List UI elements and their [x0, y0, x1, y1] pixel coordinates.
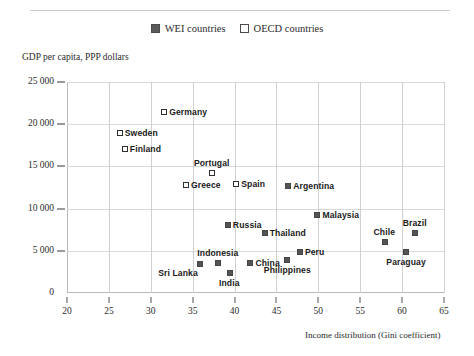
- data-point[interactable]: [262, 230, 268, 236]
- data-point-label: Brazil: [403, 218, 427, 228]
- data-point-label: Greece: [191, 180, 221, 190]
- data-point-label: Portugal: [194, 158, 230, 168]
- data-point-label: Sweden: [125, 128, 158, 138]
- x-tick-mark: [275, 297, 277, 303]
- data-point[interactable]: [215, 260, 221, 266]
- y-tick-mark: [57, 208, 65, 210]
- data-point[interactable]: [227, 270, 233, 276]
- data-point-label: Chile: [374, 227, 396, 237]
- legend-item-oecd: OECD countries: [240, 23, 324, 34]
- data-point[interactable]: [412, 230, 418, 236]
- x-tick-label: 60: [390, 306, 414, 316]
- data-point[interactable]: [314, 212, 320, 218]
- y-axis-title: GDP per capita, PPP dollars: [22, 52, 129, 62]
- y-tick-label: 0: [49, 287, 54, 297]
- y-tick-mark: [57, 81, 65, 83]
- x-tick-mark: [317, 297, 319, 303]
- data-point-label: Indonesia: [197, 248, 238, 258]
- chart-figure: WEI countries OECD countries GDP per cap…: [0, 0, 474, 356]
- gridline-vertical: [444, 82, 445, 293]
- header-divider: [30, 10, 450, 11]
- data-point-label: Thailand: [270, 228, 306, 238]
- x-tick-mark: [401, 297, 403, 303]
- plot-area: GermanySwedenFinlandPortugalGreeceSpainA…: [67, 82, 444, 293]
- filled-square-icon: [151, 24, 160, 33]
- data-point-label: Philippines: [264, 265, 311, 275]
- data-point-label: Finland: [130, 144, 161, 154]
- x-tick-label: 20: [55, 306, 79, 316]
- data-point-label: Sri Lanka: [158, 268, 198, 278]
- data-point[interactable]: [284, 257, 290, 263]
- data-point[interactable]: [161, 109, 167, 115]
- y-tick-label: 10 000: [28, 203, 54, 213]
- x-tick-mark: [192, 297, 194, 303]
- x-tick-mark: [150, 297, 152, 303]
- legend-label-oecd: OECD countries: [254, 23, 324, 34]
- data-point-label: Spain: [241, 179, 265, 189]
- chart-legend: WEI countries OECD countries: [0, 23, 474, 34]
- data-point[interactable]: [403, 249, 409, 255]
- x-tick-label: 35: [181, 306, 205, 316]
- y-tick-label: 5 000: [33, 245, 54, 255]
- x-tick-label: 55: [348, 306, 372, 316]
- gridline-vertical: [151, 82, 152, 293]
- x-tick-mark: [234, 297, 236, 303]
- x-tick-label: 30: [139, 306, 163, 316]
- gridline-horizontal: [67, 82, 444, 83]
- y-tick-label: 25 000: [28, 76, 54, 86]
- data-point[interactable]: [122, 146, 128, 152]
- x-tick-label: 40: [223, 306, 247, 316]
- data-point-label: Russia: [233, 220, 262, 230]
- data-point[interactable]: [197, 261, 203, 267]
- y-tick-label: 20 000: [28, 118, 54, 128]
- x-tick-label: 45: [264, 306, 288, 316]
- y-tick-mark: [57, 123, 65, 125]
- data-point[interactable]: [183, 182, 189, 188]
- data-point-label: Malaysia: [322, 210, 359, 220]
- data-point-label: Paraguay: [386, 257, 426, 267]
- data-point-label: Argentina: [293, 181, 334, 191]
- open-square-icon: [240, 24, 249, 33]
- y-tick-label: 15 000: [28, 160, 54, 170]
- data-point[interactable]: [382, 239, 388, 245]
- data-point[interactable]: [247, 260, 253, 266]
- x-tick-label: 25: [97, 306, 121, 316]
- x-tick-mark: [108, 297, 110, 303]
- data-point[interactable]: [297, 249, 303, 255]
- gridline-horizontal: [67, 124, 444, 125]
- data-point[interactable]: [117, 130, 123, 136]
- data-point-label: India: [219, 278, 240, 288]
- legend-label-wei: WEI countries: [165, 23, 226, 34]
- y-tick-mark: [57, 250, 65, 252]
- y-tick-mark: [57, 165, 65, 167]
- x-tick-mark: [66, 297, 68, 303]
- x-axis-title: Income distribution (Gini coefficient): [305, 330, 441, 340]
- gridline-vertical: [109, 82, 110, 293]
- data-point-label: Germany: [169, 107, 207, 117]
- gridline-horizontal: [67, 251, 444, 252]
- gridline-vertical: [360, 82, 361, 293]
- data-point[interactable]: [225, 222, 231, 228]
- x-tick-mark: [359, 297, 361, 303]
- gridline-horizontal: [67, 209, 444, 210]
- legend-item-wei: WEI countries: [151, 23, 226, 34]
- data-point-label: Peru: [305, 247, 325, 257]
- gridline-vertical: [235, 82, 236, 293]
- x-tick-mark: [443, 297, 445, 303]
- gridline-horizontal: [67, 166, 444, 167]
- data-point[interactable]: [233, 181, 239, 187]
- data-point[interactable]: [209, 170, 215, 176]
- x-tick-label: 50: [306, 306, 330, 316]
- x-tick-label: 65: [432, 306, 456, 316]
- data-point[interactable]: [285, 183, 291, 189]
